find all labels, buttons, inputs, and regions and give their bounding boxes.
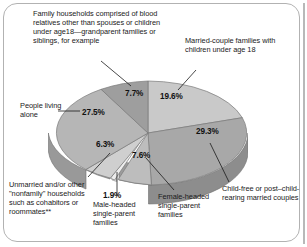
value-living-alone: 27.5% xyxy=(82,108,105,117)
value-married-couple: 19.6% xyxy=(160,92,183,101)
value-child-free: 29.3% xyxy=(196,127,219,136)
label-female-headed: Female-headed single-parent families xyxy=(158,192,224,219)
value-family-relatives: 7.7% xyxy=(125,89,143,98)
value-male-headed: 1.9% xyxy=(103,191,121,200)
label-child-free: Child-free or post–child-rearing married… xyxy=(222,184,302,202)
value-female-headed: 7.6% xyxy=(132,151,150,160)
label-married-couple: Married-couple families with children un… xyxy=(185,36,277,54)
label-male-headed: Male-headed single-parent families xyxy=(93,200,155,227)
label-family-relatives: Family households comprised of blood rel… xyxy=(33,9,165,45)
value-nonfamily: 6.3% xyxy=(96,140,114,149)
leader-family-relatives xyxy=(101,61,131,86)
label-living-alone: People living alone xyxy=(20,101,68,119)
label-nonfamily: Unmarried and/or other "nonfamily" house… xyxy=(9,180,95,216)
